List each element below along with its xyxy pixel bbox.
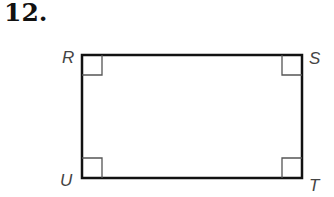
vertex-label-u: U bbox=[60, 171, 73, 190]
right-angle-mark-s bbox=[282, 55, 302, 75]
right-angle-mark-r bbox=[82, 55, 102, 75]
rectangle-rstu bbox=[82, 55, 302, 178]
vertex-label-r: R bbox=[62, 48, 74, 67]
vertex-label-s: S bbox=[309, 49, 321, 68]
right-angle-mark-u bbox=[82, 158, 102, 178]
right-angle-mark-t bbox=[282, 158, 302, 178]
rectangle-diagram: R S T U bbox=[0, 0, 334, 197]
vertex-label-t: T bbox=[309, 176, 321, 195]
